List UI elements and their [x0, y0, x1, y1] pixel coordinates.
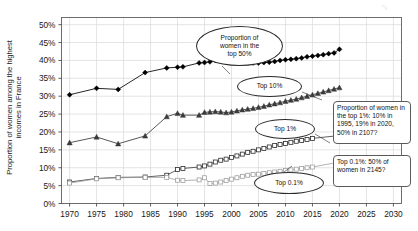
x-tick-label: 1995 [190, 209, 220, 219]
top-01-callout: Top 0.1%: 50% of women in 2145? [333, 155, 411, 187]
top-10-oval-label: Top 10% [257, 82, 283, 90]
x-tick-label: 2010 [270, 209, 300, 219]
top-50-oval-label: Proportion of women in the top 50% [220, 34, 259, 58]
top-01-oval: Top 0.1% [254, 172, 324, 194]
x-tick-label: 1975 [82, 209, 112, 219]
y-tick-label: 35% [26, 73, 56, 83]
y-tick-label: 50% [26, 20, 56, 30]
x-tick-label: 2030 [378, 209, 408, 219]
x-tick-label: 2020 [324, 209, 354, 219]
chart-figure: Proportion of women among the highest in… [0, 0, 418, 231]
x-tick-label: 1990 [163, 209, 193, 219]
top-10-oval: Top 10% [237, 76, 302, 97]
y-tick-label: 10% [26, 163, 56, 173]
y-tick-label: 40% [26, 55, 56, 65]
y-axis-title: Proportion of women among the highest in… [5, 7, 24, 207]
top-1-callout: Proportion of women in the top 1%: 10% i… [333, 101, 411, 144]
y-tick-label: 25% [26, 109, 56, 119]
scan-artifact: ∿ [381, 2, 389, 12]
y-tick-label: 0% [26, 199, 56, 209]
top-1-oval: Top 1% [255, 119, 315, 139]
y-tick-label: 5% [26, 181, 56, 191]
x-tick-label: 2025 [351, 209, 381, 219]
y-tick-label: 20% [26, 127, 56, 137]
top-01-callout-text: Top 0.1%: 50% of women in 2145? [337, 158, 389, 173]
y-tick-label: 30% [26, 91, 56, 101]
x-tick-label: 2015 [297, 209, 327, 219]
top-1-callout-text: Proportion of women in the top 1%: 10% i… [337, 104, 405, 136]
x-tick-label: 2000 [217, 209, 247, 219]
x-tick-label: 1980 [109, 209, 139, 219]
x-tick-label: 2005 [243, 209, 273, 219]
top-50-oval: Proportion of women in the top 50% [196, 26, 283, 66]
top-01-oval-label: Top 0.1% [275, 179, 303, 187]
top-1-oval-label: Top 1% [274, 125, 296, 133]
x-tick-label: 1985 [136, 209, 166, 219]
x-tick-label: 1970 [55, 209, 85, 219]
y-tick-label: 45% [26, 38, 56, 48]
y-tick-label: 15% [26, 145, 56, 155]
